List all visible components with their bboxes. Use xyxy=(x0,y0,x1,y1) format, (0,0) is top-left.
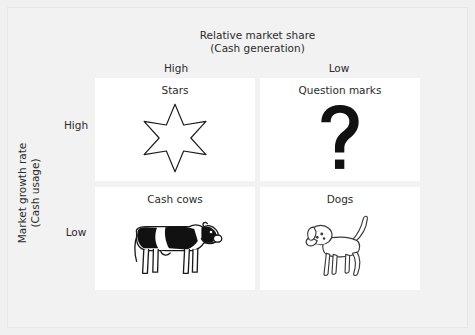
x-axis-title: Relative market share (Cash generation) xyxy=(95,29,420,55)
diagram-canvas: Relative market share (Cash generation) … xyxy=(0,0,475,335)
question-mark-icon xyxy=(317,102,363,174)
y-axis-title: Market growth rate (Cash usage) xyxy=(16,118,42,268)
y-axis-title-line1: Market growth rate xyxy=(16,143,28,244)
quadrant-stars[interactable]: Stars xyxy=(95,78,255,181)
quadrant-question-marks[interactable]: Question marks xyxy=(260,78,420,181)
y-axis-title-line2: (Cash usage) xyxy=(29,118,42,268)
six-pointed-star-icon xyxy=(139,102,211,174)
column-header-high: High xyxy=(95,62,257,74)
quadrant-dogs[interactable]: Dogs xyxy=(260,187,420,290)
row-header-low: Low xyxy=(58,226,94,238)
cow-icon xyxy=(127,211,223,283)
quadrant-art-question-marks xyxy=(260,98,420,178)
quadrant-label-cash-cows: Cash cows xyxy=(95,193,255,205)
matrix-grid: Stars Question marks Cash cows xyxy=(95,78,420,290)
x-axis-title-line2: (Cash generation) xyxy=(95,42,420,55)
quadrant-cash-cows[interactable]: Cash cows xyxy=(95,187,255,290)
dog-icon xyxy=(300,210,380,284)
x-axis-title-line1: Relative market share xyxy=(200,29,315,41)
quadrant-label-question-marks: Question marks xyxy=(260,84,420,96)
column-header-low: Low xyxy=(258,62,420,74)
quadrant-art-stars xyxy=(95,98,255,178)
quadrant-label-dogs: Dogs xyxy=(260,193,420,205)
quadrant-art-cash-cows xyxy=(95,207,255,287)
quadrant-label-stars: Stars xyxy=(95,84,255,96)
quadrant-art-dogs xyxy=(260,207,420,287)
row-header-high: High xyxy=(58,119,94,131)
